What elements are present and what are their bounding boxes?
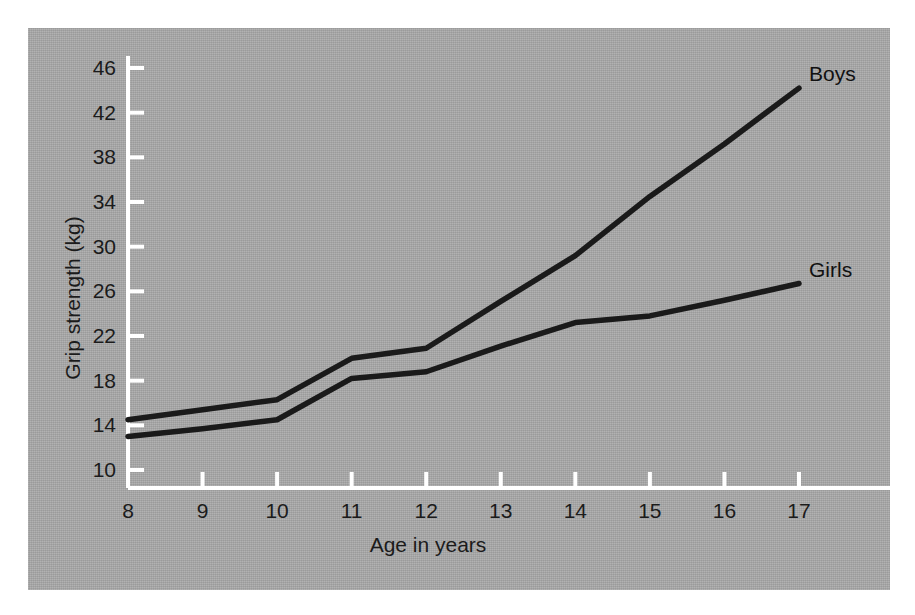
- x-axis-tick-label: 10: [257, 500, 297, 521]
- x-axis-tick-label: 16: [704, 500, 744, 521]
- series-label-boys: Boys: [809, 62, 856, 86]
- y-axis-tick-label: 10: [70, 459, 116, 480]
- y-axis-tick-label: 38: [70, 146, 116, 167]
- plot-area: 10141822263034384246 891011121314151617 …: [28, 28, 890, 590]
- y-axis-tick-label: 42: [70, 102, 116, 123]
- series-label-girls: Girls: [809, 258, 852, 282]
- x-axis-tick-label: 12: [406, 500, 446, 521]
- x-axis-tick-label: 14: [555, 500, 595, 521]
- x-axis-tick-label: 11: [332, 500, 372, 521]
- series-group: [128, 88, 799, 436]
- y-axis-tick-label: 14: [70, 414, 116, 435]
- y-axis-title: Grip strength (kg): [61, 188, 85, 408]
- series-line-boys: [128, 88, 799, 420]
- x-axis-tick-label: 13: [481, 500, 521, 521]
- chart-canvas: [28, 28, 890, 590]
- x-axis-tick-label: 17: [779, 500, 819, 521]
- y-axis-tick-label: 46: [70, 57, 116, 78]
- x-axis-tick-label: 9: [183, 500, 223, 521]
- x-axis-title: Age in years: [28, 533, 828, 557]
- series-line-girls: [128, 284, 799, 437]
- x-axis-tick-label: 15: [630, 500, 670, 521]
- chart-figure-panel: 10141822263034384246 891011121314151617 …: [28, 28, 890, 590]
- x-axis-tick-label: 8: [108, 500, 148, 521]
